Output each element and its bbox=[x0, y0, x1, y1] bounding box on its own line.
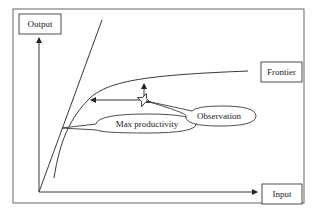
production-frontier-diagram: Max productivity Observation Output Fron… bbox=[0, 0, 316, 218]
max-productivity-callout: Max productivity bbox=[62, 114, 196, 133]
x-axis-label: Input bbox=[273, 189, 292, 199]
output-label-box: Output bbox=[19, 14, 61, 34]
input-label-box: Input bbox=[262, 184, 302, 204]
frontier-label: Frontier bbox=[267, 67, 296, 77]
y-axis-label: Output bbox=[27, 19, 53, 29]
observation-label: Observation bbox=[197, 111, 241, 121]
ray-from-origin bbox=[39, 20, 102, 192]
diagram-frame bbox=[13, 9, 304, 203]
frontier-label-box: Frontier bbox=[261, 62, 302, 82]
max-productivity-label: Max productivity bbox=[116, 119, 179, 129]
